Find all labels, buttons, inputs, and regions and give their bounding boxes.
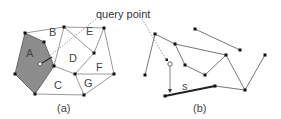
caption-b: (b) [193, 102, 206, 114]
arrowhead-icon [168, 89, 172, 93]
panel-a: A B C D E F G (a) [14, 25, 116, 114]
segment-s [165, 86, 215, 96]
query-point-b [168, 62, 172, 66]
region-a-face [15, 33, 54, 94]
diagram-canvas: A B C D E F G (a) query point [0, 0, 281, 119]
segments [145, 29, 265, 96]
region-label-b: B [49, 26, 56, 38]
caption-a: (a) [57, 102, 70, 114]
region-label-e: E [86, 25, 93, 37]
region-label-d: D [69, 52, 77, 64]
segment-label-s: s [182, 80, 188, 92]
query-point-label: query point [96, 8, 150, 20]
panel-b: s (b) [144, 28, 267, 115]
query-point-annotation: query point [41, 8, 167, 63]
region-label-f: F [96, 61, 103, 73]
region-label-g: G [84, 77, 93, 89]
region-label-a: A [26, 47, 34, 59]
region-label-c: C [54, 79, 62, 91]
